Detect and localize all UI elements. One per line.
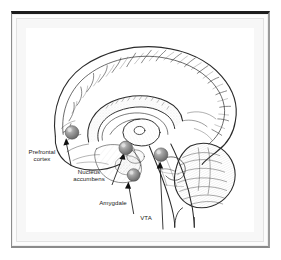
brain-sagittal-illustration	[26, 28, 254, 232]
label-vta: VTA	[128, 214, 164, 221]
plate-mat	[16, 18, 264, 242]
plate-frame	[11, 11, 270, 248]
figure-root: Prefrontal cortex Nucleus accumbens Amyg…	[0, 0, 281, 260]
plate-canvas	[26, 28, 254, 232]
marker-amygdale	[127, 169, 140, 182]
label-prefrontal-cortex-line1: Prefrontal	[18, 148, 66, 155]
marker-prefrontal-cortex	[65, 126, 79, 140]
label-amygdale: Amygdale	[88, 199, 138, 206]
label-prefrontal-cortex: Prefrontal cortex	[18, 148, 66, 163]
label-nucleus-accumbens-line1: Nucleus	[62, 168, 116, 175]
marker-vta	[154, 148, 168, 162]
label-vta-line1: VTA	[128, 214, 164, 221]
label-nucleus-accumbens-line2: accumbens	[62, 175, 116, 182]
arrowhead-vta	[157, 161, 163, 168]
leader-line-prefrontal	[66, 142, 71, 165]
label-prefrontal-cortex-line2: cortex	[18, 155, 66, 162]
label-nucleus-accumbens: Nucleus accumbens	[62, 168, 116, 183]
label-amygdale-line1: Amygdale	[88, 199, 138, 206]
marker-nucleus-accumbens	[119, 141, 133, 155]
